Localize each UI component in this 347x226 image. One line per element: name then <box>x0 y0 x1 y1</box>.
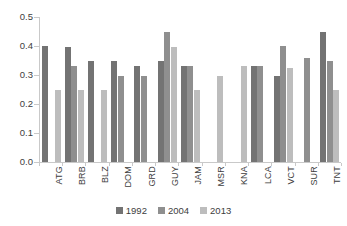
x-axis-tick <box>341 163 342 166</box>
plot-area <box>39 17 341 162</box>
bar-chart: 0.00.10.20.30.40.5 ATGBRBBLZDOMGRDGUYJAM… <box>0 0 347 226</box>
bar <box>241 66 247 162</box>
x-axis-tick-label: GRD <box>148 166 157 200</box>
bar <box>164 32 170 162</box>
x-axis-tick <box>62 163 63 166</box>
bar <box>251 66 257 162</box>
x-axis-tick <box>85 163 86 166</box>
x-axis-tick <box>271 163 272 166</box>
bar <box>320 32 326 163</box>
chart-legend: 199220042013 <box>0 206 347 216</box>
legend-item[interactable]: 1992 <box>116 206 147 216</box>
bar-group <box>85 17 108 162</box>
y-axis-tick-label: 0.2 <box>3 99 33 109</box>
bar <box>111 61 117 162</box>
bar-group <box>132 17 155 162</box>
x-axis-tick <box>109 163 110 166</box>
x-axis-line <box>39 162 341 163</box>
bar <box>141 76 147 162</box>
y-axis-tick-label: 0.3 <box>3 70 33 80</box>
legend-label: 2004 <box>168 206 189 216</box>
y-axis-tick-label: 0.0 <box>3 157 33 167</box>
bar-group <box>248 17 271 162</box>
bar-group <box>178 17 201 162</box>
x-axis-tick <box>202 163 203 166</box>
x-axis-tick-label: SUR <box>310 166 319 200</box>
bar <box>118 76 124 162</box>
bar <box>181 66 187 162</box>
x-axis-tick <box>39 163 40 166</box>
legend-swatch-icon <box>158 207 165 214</box>
x-axis-tick <box>225 163 226 166</box>
x-axis-tick-label: BRB <box>78 166 87 200</box>
bar <box>101 90 107 162</box>
bar <box>327 61 333 163</box>
x-axis-tick-label: MSR <box>217 166 226 200</box>
bar-group <box>295 17 318 162</box>
x-axis-tick <box>178 163 179 166</box>
bar-group <box>318 17 341 162</box>
bar <box>65 47 71 162</box>
legend-label: 2013 <box>210 206 231 216</box>
bar <box>187 66 193 162</box>
x-axis-tick <box>155 163 156 166</box>
bar-group <box>225 17 248 162</box>
bar <box>194 90 200 163</box>
bar-group <box>155 17 178 162</box>
bar <box>274 76 280 162</box>
x-axis-tick-label: DOM <box>124 166 133 200</box>
x-axis-tick <box>318 163 319 166</box>
x-axis-tick-label: GUY <box>171 166 180 200</box>
x-axis-tick-label: JAM <box>194 166 203 200</box>
y-axis-tick-label: 0.1 <box>3 128 33 138</box>
x-axis-tick-label: ATG <box>55 166 64 200</box>
bar <box>333 90 339 163</box>
bar <box>158 61 164 163</box>
bar <box>217 76 223 162</box>
bar <box>287 68 293 162</box>
legend-swatch-icon <box>116 207 123 214</box>
x-axis-tick-label: LCA <box>264 166 273 200</box>
bar <box>134 66 140 162</box>
bar <box>304 58 310 162</box>
legend-item[interactable]: 2013 <box>200 206 231 216</box>
x-axis-tick-label: TNT <box>333 166 342 200</box>
bar <box>55 90 61 162</box>
x-axis-tick-label: KNA <box>240 166 249 200</box>
bar <box>71 66 77 162</box>
x-axis-tick <box>295 163 296 166</box>
x-axis-tick-label: BLZ <box>101 166 110 200</box>
bar-group <box>271 17 294 162</box>
bar <box>171 47 177 162</box>
legend-label: 1992 <box>126 206 147 216</box>
bar-group <box>202 17 225 162</box>
bar <box>257 66 263 162</box>
bar <box>88 61 94 162</box>
x-axis-tick <box>132 163 133 166</box>
bar <box>78 90 84 162</box>
bar-group <box>62 17 85 162</box>
x-axis-tick <box>248 163 249 166</box>
bar <box>42 46 48 162</box>
y-axis-tick-label: 0.5 <box>3 12 33 22</box>
legend-swatch-icon <box>200 207 207 214</box>
bar-group <box>39 17 62 162</box>
bar <box>280 46 286 162</box>
x-axis-tick-label: VCT <box>287 166 296 200</box>
y-axis-tick-label: 0.4 <box>3 41 33 51</box>
legend-item[interactable]: 2004 <box>158 206 189 216</box>
bar-group <box>109 17 132 162</box>
